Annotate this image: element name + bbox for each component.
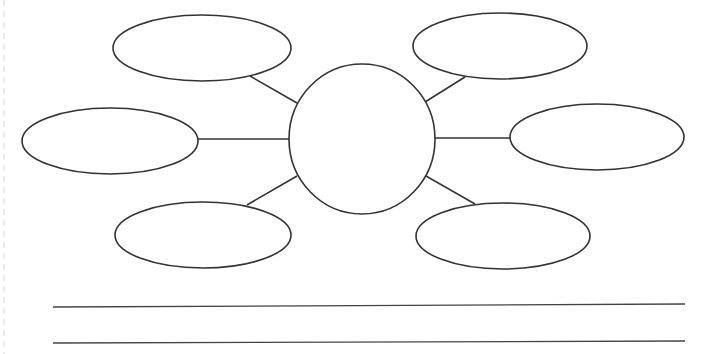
bubble-ellipse[interactable] <box>416 203 590 269</box>
bubble-map-diagram <box>0 0 710 354</box>
bubble-ellipse[interactable] <box>113 15 291 81</box>
bubble-bottom-left[interactable] <box>115 202 291 268</box>
connector-top-right <box>425 77 465 102</box>
bubble-middle-left[interactable] <box>22 108 198 174</box>
bubble-ellipse[interactable] <box>413 13 587 79</box>
bubble-ellipse[interactable] <box>22 108 198 174</box>
answer-line-1[interactable] <box>53 304 685 307</box>
connector-top-left <box>250 76 297 103</box>
center-circle[interactable] <box>289 64 435 214</box>
bubble-ellipse[interactable] <box>510 104 684 170</box>
answer-line-2[interactable] <box>53 341 685 343</box>
connector-bottom-right <box>426 176 475 204</box>
bubble-middle-right[interactable] <box>510 104 684 170</box>
answer-lines[interactable] <box>53 304 685 343</box>
bubble-top-left[interactable] <box>113 15 291 81</box>
center-node[interactable] <box>289 64 435 214</box>
bubble-top-right[interactable] <box>413 13 587 79</box>
bubble-ellipse[interactable] <box>115 202 291 268</box>
bubble-bottom-right[interactable] <box>416 203 590 269</box>
connector-bottom-left <box>247 176 297 205</box>
